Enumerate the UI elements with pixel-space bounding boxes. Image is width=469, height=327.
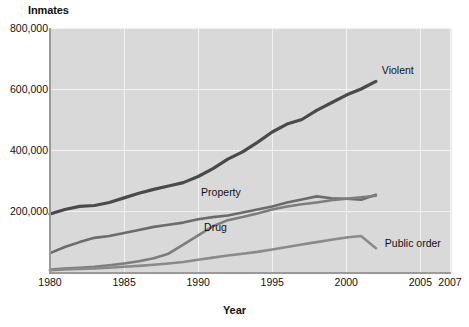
gridline-vertical [450, 28, 451, 272]
y-axis-line [49, 28, 51, 273]
y-tick-label: 800,000 [2, 22, 48, 34]
inmates-by-offense-line-chart: Inmates 800,000600,000400,000200,000 198… [0, 0, 469, 327]
series-line-public-order [50, 236, 376, 270]
x-tick-label: 1990 [186, 276, 209, 288]
y-tick-label: 400,000 [2, 144, 48, 156]
series-label-violent: Violent [382, 64, 414, 76]
series-label-public-order: Public order [385, 237, 441, 249]
series-label-drug: Drug [204, 221, 227, 233]
x-axis-line [49, 272, 451, 274]
x-tick-label: 1985 [112, 276, 135, 288]
x-tick-label: 1995 [261, 276, 284, 288]
y-tick-label: 600,000 [2, 83, 48, 95]
x-tick-label: 2000 [335, 276, 358, 288]
series-label-property: Property [201, 186, 241, 198]
x-axis-title: Year [0, 304, 469, 316]
x-tick-label: 2005 [409, 276, 432, 288]
x-tick-label: 2007 [438, 276, 461, 288]
y-tick-label: 200,000 [2, 205, 48, 217]
x-tick-label: 1980 [38, 276, 61, 288]
